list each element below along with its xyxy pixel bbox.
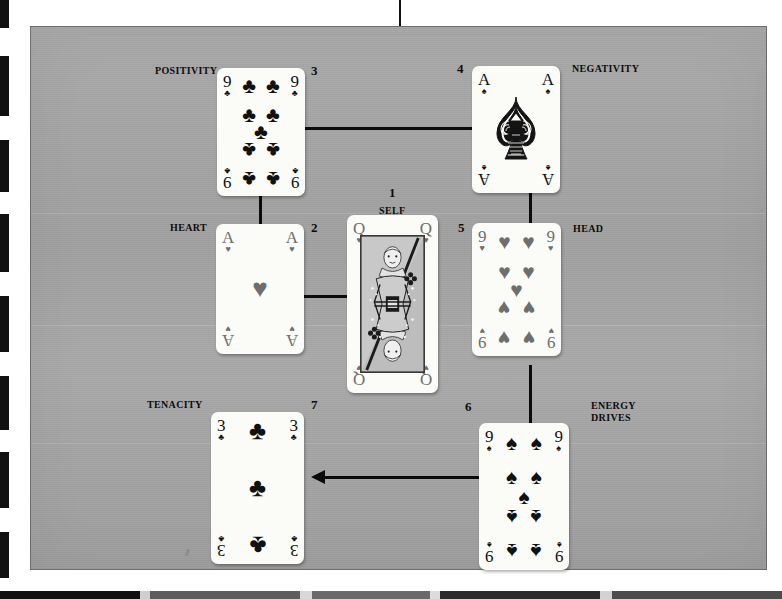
paper-fold-line	[31, 443, 766, 444]
pip: ♣	[242, 138, 256, 159]
card-position-6[interactable]: 9 ♠ 9 ♠ 9 ♠ 9 ♠ ♠ ♠ ♠	[479, 423, 569, 570]
card-index-bottom-right: 3 ♣	[290, 534, 299, 559]
pip: ♠	[531, 466, 542, 487]
pip: ♠	[506, 506, 517, 527]
pip: ♠	[506, 540, 517, 561]
card-pip-layout: ♠ ♠ ♠ ♠ ♠ ♠ ♠ ♠ ♠	[496, 431, 552, 562]
pip: ♥	[498, 297, 510, 318]
page-edge-mark	[0, 376, 9, 430]
pip: ♣	[266, 138, 280, 159]
card-index-top-right: 9 ♠	[555, 428, 564, 453]
pip: ♥	[498, 327, 510, 348]
page-edge-mark	[0, 532, 9, 578]
pip: ♣	[242, 76, 256, 97]
page-edge-mark	[0, 214, 9, 272]
pip-center: ♠	[518, 486, 529, 507]
card-position-4[interactable]: A ♠ A ♠ A ♠ A ♠	[472, 66, 560, 193]
number-position-3: 3	[311, 63, 318, 79]
card-index-top-right: 9 ♥	[547, 228, 556, 253]
pip: ♠	[506, 466, 517, 487]
page-edge-mark	[0, 56, 9, 116]
pip: ♥	[522, 261, 534, 282]
scanned-page: 9 ♣ 9 ♣ 9 ♣ 9 ♣ ♣ ♣ ♣	[0, 0, 782, 599]
pip: ♥	[522, 297, 534, 318]
card-index-top-left: 3 ♣	[217, 417, 226, 442]
page-bottom-edge	[0, 591, 782, 599]
spread-photo-panel: 9 ♣ 9 ♣ 9 ♣ 9 ♣ ♣ ♣ ♣	[30, 26, 767, 570]
pip: ♥	[498, 261, 510, 282]
label-position-3: POSITIVITY	[155, 65, 217, 77]
card-index-bottom-left: 9 ♠	[485, 540, 494, 565]
number-position-6: 6	[465, 399, 472, 415]
card-face-ace-of-hearts: A ♥ A ♥ A ♥ A ♥ ♥	[216, 224, 304, 354]
card-pip-layout: ♣ ♣ ♣ ♣ ♣ ♣ ♣ ♣ ♣	[234, 76, 288, 188]
pip: ♠	[531, 432, 542, 453]
card-index-bottom-right: 9 ♠	[555, 540, 564, 565]
label-position-2: HEART	[170, 222, 207, 234]
pip-center: ♥	[252, 276, 267, 302]
card-index-bottom-right: 9 ♣	[291, 166, 300, 191]
card-pip-layout: ♥	[233, 232, 287, 346]
court-figure-illustration	[360, 235, 425, 373]
card-index-top-right: 3 ♣	[290, 417, 299, 442]
card-position-2[interactable]: A ♥ A ♥ A ♥ A ♥ ♥	[216, 224, 304, 354]
card-index-top-left: 9 ♠	[485, 428, 494, 453]
page-edge-mark	[0, 452, 9, 508]
label-position-7: TENACITY	[147, 399, 203, 411]
card-index-top-right: A ♥	[286, 229, 298, 254]
pip: ♥	[498, 231, 510, 252]
number-position-4: 4	[457, 61, 464, 77]
card-pip-layout: ♥ ♥ ♥ ♥ ♥ ♥ ♥ ♥ ♥	[489, 231, 544, 348]
page-edge-mark	[0, 0, 9, 28]
pip-center: ♥	[510, 279, 522, 300]
scan-speck	[185, 549, 190, 557]
pip: ♠	[531, 540, 542, 561]
card-index-bottom-left: 9 ♣	[223, 166, 232, 191]
label-position-1: SELF	[379, 205, 405, 217]
card-face-nine-of-hearts: 9 ♥ 9 ♥ 9 ♥ 9 ♥ ♥ ♥ ♥	[472, 223, 561, 356]
card-index-top-right: 9 ♣	[291, 73, 300, 98]
pip: ♠	[531, 506, 542, 527]
pip: ♥	[522, 327, 534, 348]
pip: ♣	[242, 167, 256, 188]
top-registration-tick	[399, 0, 401, 26]
card-index-bottom-left: 9 ♥	[478, 326, 487, 351]
card-index-top-left: 9 ♥	[478, 228, 487, 253]
card-position-3[interactable]: 9 ♣ 9 ♣ 9 ♣ 9 ♣ ♣ ♣ ♣	[217, 68, 305, 196]
number-position-1: 1	[389, 185, 396, 201]
label-position-4: NEGATIVITY	[572, 63, 639, 75]
card-pip-layout: ♣ ♣ ♣	[228, 420, 287, 556]
card-face-nine-of-clubs: 9 ♣ 9 ♣ 9 ♣ 9 ♣ ♣ ♣ ♣	[217, 68, 305, 196]
card-index-bottom-right: 9 ♥	[547, 326, 556, 351]
card-position-5[interactable]: 9 ♥ 9 ♥ 9 ♥ 9 ♥ ♥ ♥ ♥	[472, 223, 561, 356]
ace-of-spades-ornament-icon	[483, 91, 549, 169]
pip: ♥	[522, 231, 534, 252]
card-index-bottom-right: A ♥	[286, 324, 298, 349]
page-edge-mark	[0, 140, 9, 192]
card-face-ace-of-spades: A ♠ A ♠ A ♠ A ♠	[472, 66, 560, 193]
number-position-2: 2	[311, 220, 318, 236]
pip: ♣	[249, 532, 266, 558]
card-face-nine-of-spades: 9 ♠ 9 ♠ 9 ♠ 9 ♠ ♠ ♠ ♠	[479, 423, 569, 570]
card-position-1[interactable]: Q ♥ Q ♥ Q ♥ Q ♥	[347, 215, 438, 393]
number-position-7: 7	[311, 397, 318, 413]
arrowhead-left-icon	[311, 470, 325, 484]
label-position-5: HEAD	[573, 223, 603, 235]
pip: ♣	[266, 76, 280, 97]
pip: ♠	[506, 432, 517, 453]
pip-center: ♣	[249, 475, 266, 501]
connector-head-energy	[529, 365, 532, 423]
card-face-three-of-clubs: 3 ♣ 3 ♣ 3 ♣ 3 ♣ ♣ ♣ ♣	[211, 412, 304, 564]
card-face-queen-of-hearts: Q ♥ Q ♥ Q ♥ Q ♥	[347, 215, 438, 393]
card-index-bottom-left: 3 ♣	[217, 534, 226, 559]
pip: ♣	[249, 418, 266, 444]
pip: ♣	[266, 167, 280, 188]
card-index-top-left: 9 ♣	[223, 73, 232, 98]
number-position-5: 5	[458, 220, 465, 236]
card-position-7[interactable]: 3 ♣ 3 ♣ 3 ♣ 3 ♣ ♣ ♣ ♣	[211, 412, 304, 564]
label-position-6: ENERGY DRIVES	[591, 400, 636, 424]
page-edge-mark	[0, 296, 9, 352]
